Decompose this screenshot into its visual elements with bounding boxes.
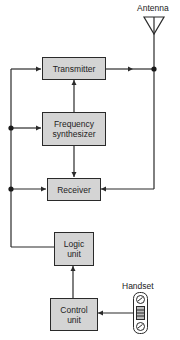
synth-label-line2: synthesizer — [53, 129, 96, 139]
frequency-synthesizer-block: Frequency synthesizer — [42, 112, 106, 146]
logic-label-line2: unit — [67, 249, 81, 259]
junction-dot — [8, 186, 13, 191]
control-label-line2: unit — [67, 315, 81, 325]
control-unit-block: Control unit — [50, 298, 98, 331]
antenna-label: Antenna — [137, 3, 169, 13]
synth-label-line1: Frequency — [54, 119, 94, 129]
handset-label: Handset — [122, 281, 154, 291]
logic-label-line1: Logic — [64, 239, 84, 249]
junction-dot — [8, 125, 13, 130]
transmitter-block: Transmitter — [42, 57, 106, 80]
logic-unit-block: Logic unit — [54, 232, 94, 266]
handset-icon — [134, 293, 148, 334]
transmitter-label: Transmitter — [53, 64, 96, 74]
receiver-block: Receiver — [47, 178, 101, 201]
receiver-label: Receiver — [57, 185, 91, 195]
control-label-line1: Control — [60, 305, 87, 315]
junction-dot — [151, 66, 156, 71]
